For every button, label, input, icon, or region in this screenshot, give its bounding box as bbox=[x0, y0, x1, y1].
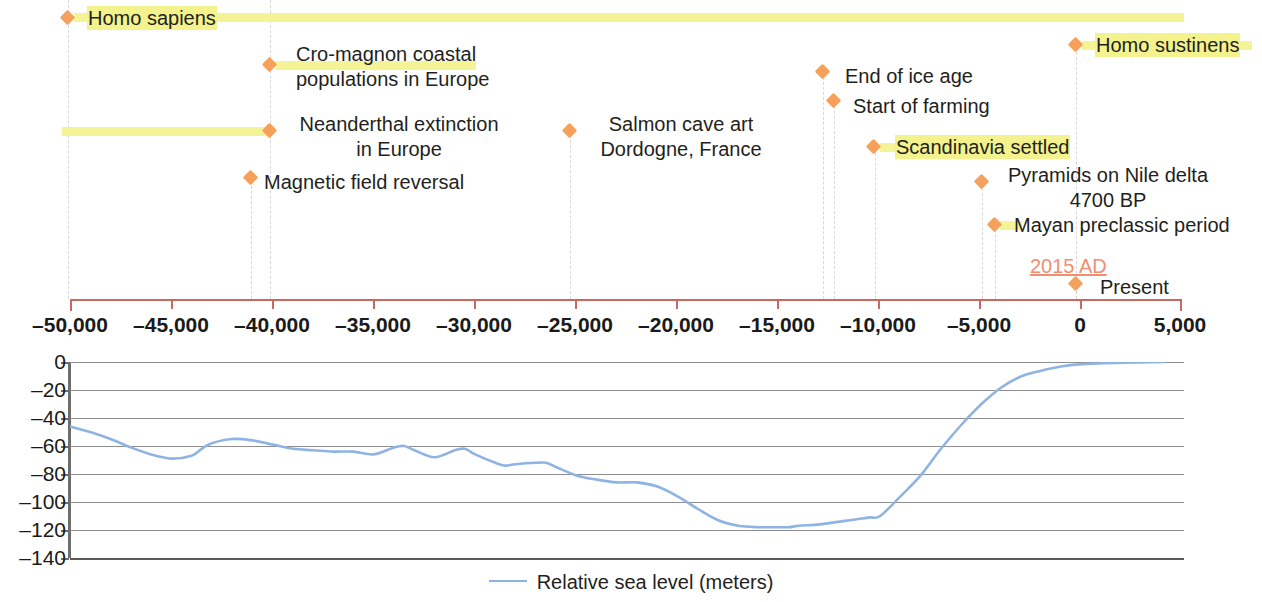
highlight-bar-neanderthal bbox=[62, 127, 270, 136]
event-label-neanderthal-line1: Neanderthal extinction bbox=[299, 113, 498, 135]
y-axis-label: –60 bbox=[31, 434, 66, 458]
marker-start-of-farming[interactable] bbox=[826, 93, 842, 109]
axis-tick bbox=[373, 299, 375, 309]
axis-label: –20,000 bbox=[638, 313, 714, 337]
marker-homo-sustinens[interactable] bbox=[1068, 37, 1084, 53]
timeline-axis-endcap-right bbox=[1180, 299, 1182, 311]
axis-label: –25,000 bbox=[537, 313, 613, 337]
event-label-scandinavia-text: Scandinavia settled bbox=[896, 136, 1069, 158]
axis-label: –45,000 bbox=[133, 313, 209, 337]
event-label-present: Present bbox=[1100, 275, 1169, 300]
marker-present[interactable] bbox=[1068, 276, 1084, 292]
event-label-end-of-ice-age: End of ice age bbox=[845, 64, 973, 89]
axis-tick bbox=[979, 299, 981, 309]
event-label-pyramids-line1: Pyramids on Nile delta bbox=[1008, 164, 1208, 186]
axis-label: –10,000 bbox=[840, 313, 916, 337]
axis-tick bbox=[676, 299, 678, 309]
axis-tick bbox=[171, 299, 173, 309]
event-label-scandinavia-settled: Scandinavia settled bbox=[896, 135, 1069, 160]
timeline-axis-endcap-left bbox=[70, 299, 72, 311]
event-label-homo-sapiens-text: Homo sapiens bbox=[88, 7, 216, 29]
chart-legend: Relative sea level (meters) bbox=[0, 570, 1262, 594]
y-axis-label: –100 bbox=[19, 490, 66, 514]
marker-end-of-ice-age[interactable] bbox=[815, 64, 831, 80]
axis-label: –30,000 bbox=[436, 313, 512, 337]
axis-tick bbox=[474, 299, 476, 309]
axis-label: –40,000 bbox=[234, 313, 310, 337]
marker-salmon-cave-art[interactable] bbox=[562, 123, 578, 139]
event-label-mayan-text: Mayan preclassic period bbox=[1014, 214, 1230, 236]
guide-line-salmon bbox=[570, 130, 571, 299]
event-label-magnetic-field-reversal: Magnetic field reversal bbox=[264, 170, 464, 195]
marker-cro-magnon[interactable] bbox=[262, 57, 278, 73]
sea-level-chart: 0 –20 –40 –60 –80 –100 –120 –140 Relativ… bbox=[0, 348, 1262, 602]
guide-line-homo-sapiens bbox=[68, 0, 69, 299]
axis-tick bbox=[575, 299, 577, 309]
axis-tick bbox=[777, 299, 779, 309]
event-label-cro-magnon: Cro-magnon coastal populations in Europe bbox=[296, 42, 489, 92]
event-label-salmon-line2: Dordogne, France bbox=[600, 138, 761, 160]
event-label-pyramids-nile-delta: Pyramids on Nile delta 4700 BP bbox=[1000, 163, 1216, 213]
y-axis-label: –20 bbox=[31, 378, 66, 402]
guide-line-end-ice-age bbox=[823, 72, 824, 299]
axis-label: –50,000 bbox=[32, 313, 108, 337]
legend-line-swatch bbox=[489, 580, 527, 582]
axis-tick bbox=[1080, 299, 1082, 309]
y-axis-label: –80 bbox=[31, 462, 66, 486]
guide-line-pyramids bbox=[982, 178, 983, 299]
guide-line-magnetic bbox=[251, 176, 252, 299]
marker-homo-sapiens[interactable] bbox=[60, 10, 76, 26]
guide-line-start-farming bbox=[834, 101, 835, 299]
event-label-homo-sapiens: Homo sapiens bbox=[88, 6, 216, 31]
present-year-annotation: 2015 AD bbox=[1030, 255, 1107, 278]
event-label-start-of-farming: Start of farming bbox=[853, 94, 990, 119]
axis-tick bbox=[272, 299, 274, 309]
axis-label: 5,000 bbox=[1154, 313, 1207, 337]
event-label-neanderthal-extinction: Neanderthal extinction in Europe bbox=[288, 112, 510, 162]
event-label-homo-sustinens-text: Homo sustinens bbox=[1096, 34, 1239, 56]
event-label-neanderthal-line2: in Europe bbox=[356, 138, 442, 160]
event-label-cro-magnon-line1: Cro-magnon coastal bbox=[296, 43, 476, 65]
legend-label-sea-level: Relative sea level (meters) bbox=[537, 571, 774, 593]
event-label-present-text: Present bbox=[1100, 276, 1169, 298]
event-label-cro-magnon-line2: populations in Europe bbox=[296, 68, 489, 90]
marker-scandinavia-settled[interactable] bbox=[866, 139, 882, 155]
y-axis-label: 0 bbox=[54, 350, 66, 374]
timeline-axis-line bbox=[70, 299, 1180, 301]
axis-label: 0 bbox=[1074, 313, 1086, 337]
event-label-pyramids-line2: 4700 BP bbox=[1070, 189, 1147, 211]
highlight-bar-homo-sapiens bbox=[74, 13, 1184, 22]
event-label-start-of-farming-text: Start of farming bbox=[853, 95, 990, 117]
marker-magnetic-field-reversal[interactable] bbox=[243, 170, 259, 186]
guide-line-scandinavia bbox=[875, 143, 876, 299]
guide-line-40000 bbox=[270, 0, 271, 299]
marker-pyramids-nile-delta[interactable] bbox=[974, 174, 990, 190]
y-axis-label: –40 bbox=[31, 406, 66, 430]
event-label-salmon-cave-art: Salmon cave art Dordogne, France bbox=[586, 112, 776, 162]
axis-label: –5,000 bbox=[947, 313, 1011, 337]
axis-label: –15,000 bbox=[739, 313, 815, 337]
event-label-magnetic-text: Magnetic field reversal bbox=[264, 171, 464, 193]
timeline-panel: Homo sapiens Homo sustinens Cro-magnon c… bbox=[0, 0, 1262, 345]
event-label-salmon-line1: Salmon cave art bbox=[609, 113, 754, 135]
event-label-homo-sustinens: Homo sustinens bbox=[1096, 33, 1239, 58]
event-label-mayan-preclassic: Mayan preclassic period bbox=[1014, 213, 1230, 238]
sea-level-curve bbox=[70, 362, 1184, 559]
y-axis-label: –140 bbox=[19, 546, 66, 570]
axis-label: –35,000 bbox=[335, 313, 411, 337]
axis-tick bbox=[878, 299, 880, 309]
y-axis-label: –120 bbox=[19, 518, 66, 542]
event-label-end-of-ice-age-text: End of ice age bbox=[845, 65, 973, 87]
